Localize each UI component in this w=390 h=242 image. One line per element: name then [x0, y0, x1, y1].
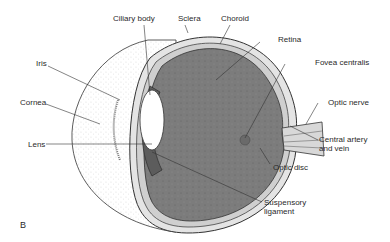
eye-illustration [0, 0, 390, 242]
label-optic-disc: Optic disc [273, 163, 308, 172]
label-iris: Iris [36, 59, 47, 68]
label-choroid: Choroid [221, 14, 249, 23]
label-suspensory: Suspensory [264, 198, 306, 207]
label-lens: Lens [28, 140, 45, 149]
label-sclera: Sclera [178, 14, 201, 23]
label-fovea-centralis: Fovea centralis [315, 58, 369, 67]
label-retina: Retina [278, 35, 301, 44]
lens [140, 90, 164, 150]
label-cornea: Cornea [20, 98, 46, 107]
label-ciliary-body: Ciliary body [113, 14, 155, 23]
fovea [240, 135, 250, 145]
optic-nerve [282, 122, 324, 156]
label-optic-nerve: Optic nerve [328, 98, 369, 107]
label-ligament: ligament [264, 207, 294, 216]
label-central-artery: Central artery [319, 135, 367, 144]
panel-letter: B [20, 221, 26, 230]
label-and-vein: and vein [319, 144, 349, 153]
eye-diagram: Ciliary body Sclera Choroid Retina Fovea… [0, 0, 390, 242]
